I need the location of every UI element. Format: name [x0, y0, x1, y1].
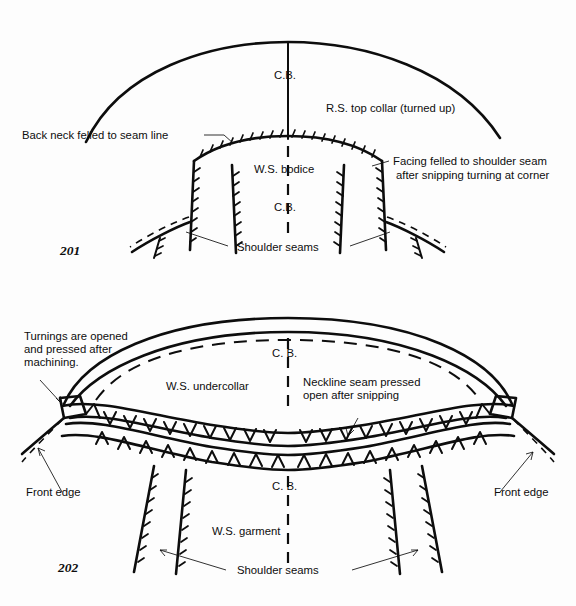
label-neckline-line2: open after snipping	[303, 389, 399, 401]
label-cb-bodice-201: C.B.	[274, 201, 296, 213]
label-facing-201-line2: after snipping turning at corner	[396, 169, 549, 181]
leader-facing	[372, 161, 389, 166]
label-turnings-line2: and pressed after	[24, 343, 112, 355]
label-neckline-line1: Neckline seam pressed	[303, 376, 420, 388]
figure-number-201: 201	[59, 243, 80, 258]
label-back-neck-201: Back neck felled to seam line	[22, 129, 168, 141]
leader-shoulder-left	[186, 232, 228, 246]
leader-shoulder-left-202	[160, 550, 226, 570]
garment-neckline-edge	[62, 435, 514, 470]
figure-201: C.B. R.S. top collar (turned up) Back ne…	[22, 42, 549, 258]
left-front-edge-solid	[22, 418, 64, 454]
right-front-edge-solid	[512, 418, 554, 454]
leader-shoulder-right	[350, 232, 390, 246]
label-undercollar-202: W.S. undercollar	[166, 380, 249, 392]
label-shoulder-seams-202: Shoulder seams	[237, 564, 319, 576]
label-turnings-line1: Turnings are opened	[24, 330, 128, 342]
label-shoulder-seams-201: Shoulder seams	[237, 241, 319, 253]
left-garment-shoulder-inner	[176, 470, 186, 574]
figure-202: Turnings are opened and pressed after ma…	[22, 318, 554, 576]
leader-shoulder-right-202	[352, 550, 418, 570]
right-garment-shoulder-outer	[422, 466, 442, 572]
figure-number-202: 202	[57, 560, 79, 575]
top-collar-outer-edge	[86, 42, 500, 142]
right-facing-edge-outer	[382, 161, 386, 250]
garment-turning-band-top	[66, 423, 510, 455]
left-facing-edge-inner	[232, 165, 236, 253]
label-facing-201-line1: Facing felled to shoulder seam	[393, 155, 547, 167]
technical-illustration: C.B. R.S. top collar (turned up) Back ne…	[0, 0, 576, 606]
label-top-collar-201: R.S. top collar (turned up)	[326, 102, 456, 114]
left-garment-shoulder-outer	[134, 466, 154, 572]
label-bodice-201: W.S. bodice	[254, 163, 314, 175]
label-garment-202: W.S. garment	[212, 525, 281, 537]
label-front-edge-right: Front edge	[494, 486, 549, 498]
label-cb-collar-201: C.B.	[274, 69, 296, 81]
left-facing-edge-outer	[190, 161, 194, 250]
label-turnings-line3: machining.	[24, 356, 79, 368]
label-front-edge-left: Front edge	[26, 486, 81, 498]
label-cb-collar-202: C. B.	[272, 347, 297, 359]
label-cb-garment-202: C. B.	[272, 480, 297, 492]
right-facing-edge-inner	[340, 165, 344, 253]
diagram-sheet: C.B. R.S. top collar (turned up) Back ne…	[0, 0, 576, 606]
